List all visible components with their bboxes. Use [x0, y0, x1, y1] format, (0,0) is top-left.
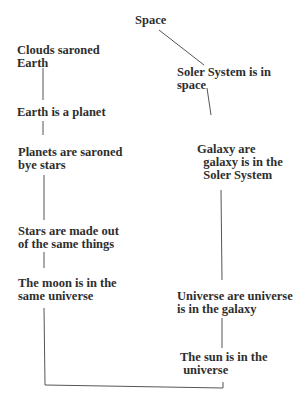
concept-map: Space Clouds saroned Earth Earth is a pl…: [0, 0, 301, 402]
node-sun-in-universe: The sun is in the universe: [180, 351, 268, 377]
node-clouds-saroned-earth: Clouds saroned Earth: [17, 44, 100, 70]
node-soler-system-in-space: Soler System is in space: [177, 66, 271, 92]
link-soler-system-to-galaxy: [207, 88, 211, 115]
node-universe-in-galaxy: Universe are universe is in the galaxy: [177, 290, 293, 316]
node-earth-is-a-planet: Earth is a planet: [17, 106, 106, 119]
node-moon-in-same-universe: The moon is in the same universe: [18, 277, 117, 303]
link-space-to-soler-system: [159, 30, 204, 65]
node-galaxy-in-soler-system: Galaxy are galaxy is in the Soler System: [197, 143, 283, 182]
node-stars-made-out-of-same-things: Stars are made out of the same things: [18, 225, 119, 251]
node-planets-saroned-bye-stars: Planets are saroned bye stars: [18, 146, 122, 172]
link-galaxy-to-universe: [221, 190, 222, 280]
node-space: Space: [135, 14, 166, 27]
